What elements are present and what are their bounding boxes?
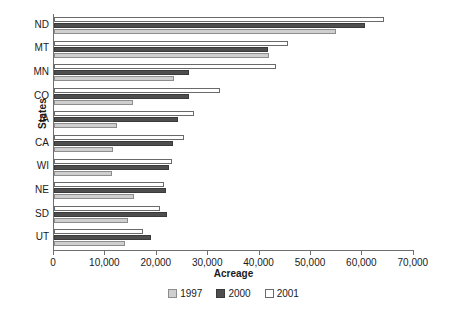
bar-IA-1997 <box>54 123 117 128</box>
x-axis-tick-label: 10,000 <box>89 257 120 268</box>
bar-group: UT <box>54 226 413 250</box>
bar-MN-1997 <box>54 76 174 81</box>
y-axis-category-label: WI <box>9 160 49 171</box>
plot-area: 010,00020,00030,00040,00050,00060,00070,… <box>53 14 413 250</box>
bar-NE-1997 <box>54 194 134 199</box>
bar-MN-2000 <box>54 70 189 75</box>
chart-legend: 199720002001 <box>53 288 414 299</box>
bar-CA-2001 <box>54 135 184 140</box>
bar-group: MN <box>54 61 413 85</box>
bar-CO-1997 <box>54 100 133 105</box>
legend-label: 2001 <box>277 288 299 299</box>
x-axis-tick-label: 0 <box>50 257 56 268</box>
x-axis-tick-label: 60,000 <box>346 257 377 268</box>
swatch-2000-icon <box>216 289 225 298</box>
x-axis-tick <box>361 250 362 255</box>
bar-group: IA <box>54 108 413 132</box>
bar-WI-1997 <box>54 171 112 176</box>
bar-ND-2001 <box>54 17 384 22</box>
bar-group: CO <box>54 85 413 109</box>
bar-SD-2001 <box>54 206 160 211</box>
bar-ND-2000 <box>54 23 365 28</box>
bar-NE-2000 <box>54 188 166 193</box>
bar-CO-2001 <box>54 88 220 93</box>
bar-WI-2001 <box>54 159 172 164</box>
bar-CO-2000 <box>54 94 189 99</box>
x-axis-tick-label: 20,000 <box>141 257 172 268</box>
x-axis-tick <box>207 250 208 255</box>
y-axis-category-label: IA <box>9 113 49 124</box>
x-axis-tick <box>156 250 157 255</box>
bar-CA-2000 <box>54 141 173 146</box>
x-axis-tick <box>53 250 54 255</box>
x-axis-tick-label: 50,000 <box>295 257 326 268</box>
x-axis-tick <box>413 250 414 255</box>
y-axis-category-label: SD <box>9 208 49 219</box>
legend-item-2001: 2001 <box>265 288 299 299</box>
x-axis-tick-label: 70,000 <box>398 257 429 268</box>
bar-group: ND <box>54 14 413 38</box>
x-axis-title: Acreage <box>53 268 414 279</box>
bar-NE-2001 <box>54 182 164 187</box>
x-axis-tick-label: 30,000 <box>192 257 223 268</box>
bar-IA-2001 <box>54 111 194 116</box>
y-axis-category-label: CA <box>9 137 49 148</box>
bar-group: SD <box>54 203 413 227</box>
y-axis-category-label: ND <box>9 19 49 30</box>
legend-label: 2000 <box>228 288 250 299</box>
legend-item-2000: 2000 <box>216 288 250 299</box>
x-axis-tick <box>259 250 260 255</box>
bar-chart: States 010,00020,00030,00040,00050,00060… <box>0 0 459 316</box>
y-axis-category-label: MT <box>9 42 49 53</box>
swatch-1997-icon <box>168 289 177 298</box>
bar-UT-2001 <box>54 229 143 234</box>
bar-MT-1997 <box>54 53 269 58</box>
bar-group: MT <box>54 38 413 62</box>
bar-SD-1997 <box>54 218 128 223</box>
bar-group: NE <box>54 179 413 203</box>
bar-WI-2000 <box>54 165 169 170</box>
bar-ND-1997 <box>54 29 336 34</box>
legend-item-1997: 1997 <box>168 288 202 299</box>
bar-SD-2000 <box>54 212 167 217</box>
x-axis-line <box>53 250 414 251</box>
bar-CA-1997 <box>54 147 113 152</box>
bar-group: WI <box>54 156 413 180</box>
bar-MT-2000 <box>54 47 268 52</box>
x-axis-tick-label: 40,000 <box>243 257 274 268</box>
bar-UT-2000 <box>54 235 151 240</box>
bar-MN-2001 <box>54 64 276 69</box>
y-axis-category-label: NE <box>9 184 49 195</box>
bar-IA-2000 <box>54 117 178 122</box>
y-axis-category-label: MN <box>9 66 49 77</box>
y-axis-category-label: CO <box>9 90 49 101</box>
y-axis-category-label: UT <box>9 231 49 242</box>
legend-label: 1997 <box>180 288 202 299</box>
x-axis-tick <box>310 250 311 255</box>
x-axis-tick <box>104 250 105 255</box>
bar-group: CA <box>54 132 413 156</box>
swatch-2001-icon <box>265 289 274 298</box>
bar-MT-2001 <box>54 41 288 46</box>
bar-UT-1997 <box>54 241 125 246</box>
